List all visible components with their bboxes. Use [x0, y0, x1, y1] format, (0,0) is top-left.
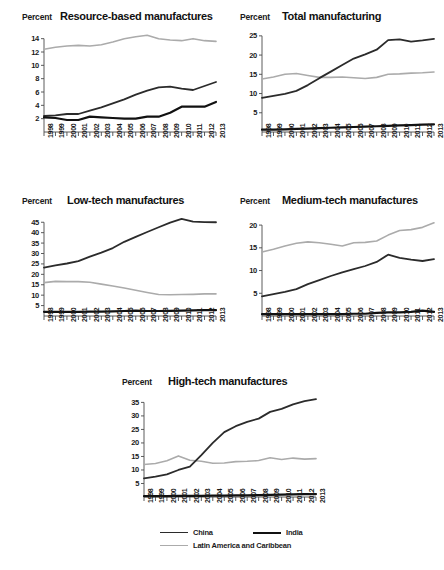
chart-panel-resource-based: Percent Resource-based manufactures 2468…	[22, 12, 222, 178]
legend-row-1: China India	[0, 528, 434, 541]
y-axis-unit-label: Percent	[22, 196, 52, 206]
chart-title: Resource-based manufactures	[60, 10, 213, 22]
chart-title: High-tech manufactures	[168, 375, 287, 387]
chart-title: Low-tech manufactures	[67, 194, 184, 206]
legend-label-india: India	[286, 528, 303, 537]
legend-line-china	[160, 532, 188, 533]
y-axis-unit-label: Percent	[240, 12, 270, 22]
legend-row-2: Latin America and Caribbean	[0, 541, 434, 554]
legend-label-latin-america: Latin America and Caribbean	[193, 541, 291, 550]
series-line-latin-america-and-caribbean	[262, 72, 434, 79]
series-line-india	[44, 102, 216, 120]
chart-panel-low-tech: Percent Low-tech manufactures 5101520253…	[22, 196, 222, 362]
y-axis-unit-label: Percent	[22, 12, 52, 22]
series-line-latin-america-and-caribbean	[44, 35, 216, 49]
series-line-india	[44, 310, 216, 312]
series-line-china	[262, 39, 434, 98]
chart-panel-total-manufacturing: Percent Total manufacturing 510152025199…	[240, 12, 440, 178]
chart-svg	[240, 28, 440, 178]
series-line-china	[144, 399, 316, 478]
chart-svg	[22, 212, 222, 362]
chart-legend: China India Latin America and Caribbean	[0, 528, 434, 554]
y-axis-unit-label: Percent	[122, 377, 152, 387]
series-line-india	[262, 311, 434, 315]
plot-area-2: 5101520253035404519981999200020012002200…	[22, 212, 222, 362]
chart-panel-medium-tech: Percent Medium-tech manufactures 5101520…	[240, 196, 440, 362]
series-line-china	[262, 255, 434, 297]
chart-header: Percent Low-tech manufactures	[22, 196, 222, 212]
chart-header: Percent Resource-based manufactures	[22, 12, 222, 28]
chart-header: Percent Total manufacturing	[240, 12, 440, 28]
chart-panel-high-tech: Percent High-tech manufactures 510152025…	[122, 377, 322, 543]
series-line-china	[44, 82, 216, 116]
series-line-latin-america-and-caribbean	[144, 456, 316, 465]
legend-line-india	[253, 532, 281, 534]
series-line-india	[144, 494, 316, 496]
series-line-latin-america-and-caribbean	[44, 281, 216, 294]
plot-area-1: 5101520251998199920002001200220032004200…	[240, 28, 440, 178]
chart-svg	[22, 28, 222, 178]
plot-area-4: 5101520253035199819992000200120022003200…	[122, 393, 322, 543]
legend-label-china: China	[193, 528, 213, 537]
chart-title: Medium-tech manufactures	[282, 194, 418, 206]
legend-item-india: India	[253, 528, 303, 537]
chart-title: Total manufacturing	[282, 10, 381, 22]
series-line-india	[262, 124, 434, 129]
plot-area-3: 5101520199819992000200120022003200420052…	[240, 212, 440, 362]
chart-svg	[122, 393, 322, 543]
legend-line-latin-america	[160, 545, 188, 546]
series-line-latin-america-and-caribbean	[262, 223, 434, 252]
chart-svg	[240, 212, 440, 362]
chart-header: Percent High-tech manufactures	[122, 377, 322, 393]
series-line-china	[44, 219, 216, 268]
legend-item-china: China	[160, 528, 213, 537]
plot-area-0: 2468101214199819992000200120022003200420…	[22, 28, 222, 178]
y-axis-unit-label: Percent	[240, 196, 270, 206]
legend-item-latin-america: Latin America and Caribbean	[160, 541, 291, 550]
chart-header: Percent Medium-tech manufactures	[240, 196, 440, 212]
